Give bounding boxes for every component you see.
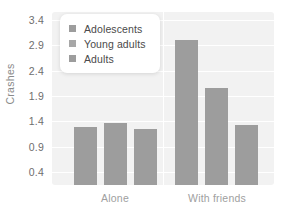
bar-withfriends-adolescents bbox=[175, 40, 198, 185]
y-axis-tick: 2.4 bbox=[29, 65, 44, 77]
legend-item-label: Young adults bbox=[84, 38, 146, 50]
legend-item-label: Adults bbox=[84, 53, 114, 65]
y-axis-tick: 1.4 bbox=[29, 115, 44, 127]
bar-alone-young-adults bbox=[104, 123, 127, 185]
y-axis-tick: 1.9 bbox=[29, 90, 44, 102]
bar-alone-adolescents bbox=[74, 127, 97, 186]
legend-item-adolescents[interactable]: Adolescents bbox=[69, 21, 146, 36]
bar-withfriends-young-adults bbox=[205, 88, 228, 185]
group-separator bbox=[163, 12, 164, 185]
y-axis-tick: 0.9 bbox=[29, 141, 44, 153]
legend-swatch-icon bbox=[69, 25, 76, 32]
legend-item-young-adults[interactable]: Young adults bbox=[69, 36, 146, 51]
bar-alone-adults bbox=[134, 129, 157, 185]
legend: Adolescents Young adults Adults bbox=[60, 14, 160, 73]
y-axis-tick: 3.4 bbox=[29, 14, 44, 26]
legend-swatch-icon bbox=[69, 55, 76, 62]
x-axis-tick-with-friends: With friends bbox=[188, 192, 246, 204]
y-axis-tick: 2.9 bbox=[29, 39, 44, 51]
bar-chart: Crashes 3.4 2.9 2.4 1.9 1.4 0.9 0.4 bbox=[0, 0, 282, 222]
legend-item-adults[interactable]: Adults bbox=[69, 51, 146, 66]
x-axis-tick-labels: Alone With friends bbox=[52, 192, 274, 210]
bar-withfriends-adults bbox=[235, 125, 258, 185]
legend-swatch-icon bbox=[69, 40, 76, 47]
y-axis-tick-labels: 3.4 2.9 2.4 1.9 1.4 0.9 0.4 bbox=[0, 12, 50, 185]
x-axis-tick-alone: Alone bbox=[101, 192, 129, 204]
legend-item-label: Adolescents bbox=[84, 23, 142, 35]
y-axis-tick: 0.4 bbox=[29, 166, 44, 178]
